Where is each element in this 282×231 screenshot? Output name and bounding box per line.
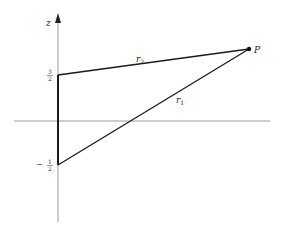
point-p <box>247 47 251 51</box>
svg-text:2: 2 <box>48 165 52 172</box>
svg-text:−: − <box>36 160 43 169</box>
point-p-label: P <box>253 45 261 55</box>
svg-text:3: 3 <box>48 68 52 75</box>
tick-label-three-halves: 3 2 <box>47 68 53 82</box>
r2-label: r2 <box>136 54 144 65</box>
r1-label: r1 <box>176 95 184 106</box>
z-axis-arrow-icon <box>55 13 61 23</box>
svg-text:2: 2 <box>48 75 52 82</box>
tick-label-minus-half: − 1 2 <box>36 158 53 172</box>
r2-line <box>58 49 249 75</box>
diagram-canvas: z P r2 r1 3 2 − 1 2 <box>0 0 282 231</box>
r1-line <box>58 49 249 165</box>
z-axis-label: z <box>45 18 51 28</box>
svg-text:1: 1 <box>48 158 52 165</box>
